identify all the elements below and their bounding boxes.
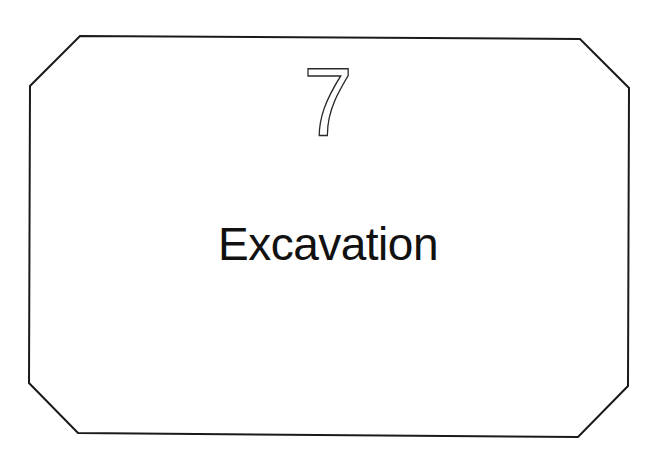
chapter-title: Excavation	[0, 216, 656, 272]
chapter-number: 7	[26, 52, 630, 152]
